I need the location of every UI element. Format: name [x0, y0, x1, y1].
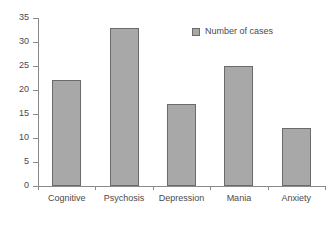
y-axis-tick — [33, 162, 38, 163]
y-axis-tick — [33, 42, 38, 43]
x-axis-tick-label: Depression — [153, 194, 210, 203]
x-axis-tick-label: Psychosis — [95, 194, 152, 203]
x-axis-tick-label: Cognitive — [38, 194, 95, 203]
x-axis-tick — [38, 186, 39, 190]
y-axis-tick — [33, 114, 38, 115]
y-axis-line — [38, 18, 39, 186]
x-axis-tick — [153, 186, 154, 190]
bar — [110, 28, 139, 186]
bar — [224, 66, 253, 186]
x-axis-tick — [210, 186, 211, 190]
x-axis-line — [38, 186, 325, 187]
bar-chart: 05101520253035 CognitivePsychosisDepress… — [0, 0, 335, 234]
y-axis-tick-label: 10 — [0, 133, 29, 142]
y-axis-tick-label: 25 — [0, 61, 29, 70]
y-axis-tick — [33, 90, 38, 91]
x-axis-tick — [325, 186, 326, 190]
bar — [52, 80, 81, 186]
y-axis-tick-label: 30 — [0, 37, 29, 46]
y-axis-tick — [33, 138, 38, 139]
x-axis-tick-label: Mania — [210, 194, 267, 203]
x-axis-tick-label: Anxiety — [268, 194, 325, 203]
y-axis-tick-label: 0 — [0, 181, 29, 190]
bar — [167, 104, 196, 186]
y-axis-tick — [33, 18, 38, 19]
legend-label: Number of cases — [205, 27, 273, 36]
legend-swatch-icon — [192, 28, 200, 36]
y-axis-tick-label: 35 — [0, 13, 29, 22]
y-axis-tick — [33, 66, 38, 67]
y-axis-tick-label: 20 — [0, 85, 29, 94]
chart-legend: Number of cases — [192, 27, 273, 36]
x-axis-tick — [268, 186, 269, 190]
y-axis-tick-label: 5 — [0, 157, 29, 166]
x-axis-tick — [95, 186, 96, 190]
y-axis-tick-label: 15 — [0, 109, 29, 118]
bar — [282, 128, 311, 186]
